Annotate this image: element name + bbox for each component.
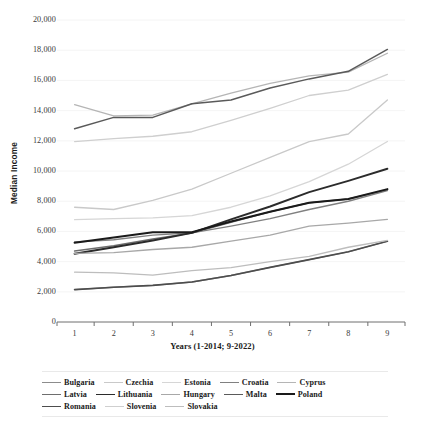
legend-label: Lithuania	[118, 390, 153, 399]
legend-item-romania[interactable]: Romania	[42, 400, 96, 412]
x-tick-label: 7	[296, 330, 322, 338]
legend-label: Cyprus	[299, 378, 325, 387]
legend-item-estonia[interactable]: Estonia	[162, 376, 210, 388]
legend-row: LatviaLithuaniaHungaryMaltaPoland	[42, 388, 388, 400]
legend-label: Hungary	[183, 390, 214, 399]
y-axis-title: Median Income	[9, 133, 19, 213]
legend-label: Bulgaria	[64, 378, 95, 387]
legend-row: RomaniaSloveniaSlovakia	[42, 400, 388, 412]
legend-line-swatch-icon	[277, 382, 296, 383]
x-tick-label: 3	[140, 330, 166, 338]
legend-label: Slovakia	[187, 402, 217, 411]
x-axis-ticks: 123456789	[0, 0, 425, 360]
legend-label: Slovenia	[127, 402, 157, 411]
legend-line-swatch-icon	[162, 382, 181, 383]
legend-label: Poland	[298, 390, 323, 399]
x-tick-label: 5	[218, 330, 244, 338]
x-tick-label: 8	[335, 330, 361, 338]
legend-item-czechia[interactable]: Czechia	[104, 376, 154, 388]
x-tick-label: 4	[179, 330, 205, 338]
legend-row: BulgariaCzechiaEstoniaCroatiaCyprus	[42, 376, 388, 388]
line-chart-figure: 02,0004,0006,0008,00010,00012,00014,0001…	[0, 0, 425, 435]
x-tick-label: 1	[62, 330, 88, 338]
legend-item-latvia[interactable]: Latvia	[42, 388, 87, 400]
legend-item-malta[interactable]: Malta	[224, 388, 267, 400]
legend-line-swatch-icon	[224, 394, 243, 395]
legend-line-swatch-icon	[104, 382, 123, 383]
legend-item-slovenia[interactable]: Slovenia	[105, 400, 157, 412]
legend-item-cyprus[interactable]: Cyprus	[277, 376, 325, 388]
legend-item-bulgaria[interactable]: Bulgaria	[42, 376, 95, 388]
legend-line-swatch-icon	[161, 394, 180, 395]
legend-line-swatch-icon	[165, 406, 184, 407]
legend-label: Malta	[246, 390, 267, 399]
legend-item-croatia[interactable]: Croatia	[220, 376, 269, 388]
legend-line-swatch-icon	[42, 382, 61, 383]
legend-item-poland[interactable]: Poland	[276, 388, 323, 400]
legend-label: Czechia	[126, 378, 154, 387]
legend-label: Romania	[64, 402, 96, 411]
chart-legend: BulgariaCzechiaEstoniaCroatiaCyprusLatvi…	[42, 371, 388, 417]
x-tick-label: 6	[257, 330, 283, 338]
legend-item-hungary[interactable]: Hungary	[161, 388, 214, 400]
x-tick-label: 2	[101, 330, 127, 338]
legend-line-swatch-icon	[42, 406, 61, 407]
legend-label: Croatia	[242, 378, 269, 387]
legend-line-swatch-icon	[96, 394, 115, 395]
legend-item-slovakia[interactable]: Slovakia	[165, 400, 217, 412]
legend-label: Estonia	[184, 378, 210, 387]
legend-line-swatch-icon	[105, 406, 124, 407]
legend-line-swatch-icon	[42, 394, 61, 395]
legend-line-swatch-icon	[220, 382, 239, 383]
plot-area: 02,0004,0006,0008,00010,00012,00014,0001…	[0, 0, 425, 360]
legend-item-lithuania[interactable]: Lithuania	[96, 388, 153, 400]
legend-line-swatch-icon	[276, 393, 295, 395]
x-axis-title: Years (1-2014; 9-2022)	[0, 341, 425, 351]
x-tick-label: 9	[374, 330, 400, 338]
legend-label: Latvia	[64, 390, 87, 399]
